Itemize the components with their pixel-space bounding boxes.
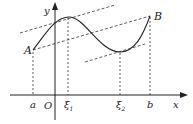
tick-b-label: b <box>147 99 153 110</box>
point-B-label: B <box>153 10 162 23</box>
tick-xi2-label: ξ2 <box>116 99 126 112</box>
y-axis-label: y <box>43 5 50 16</box>
y-axis-arrow-icon <box>52 2 58 10</box>
point-A-label: A <box>23 44 32 57</box>
tangent-line-xi1 <box>20 5 115 33</box>
mvt-diagram: A B y x O a ξ1 ξ2 b <box>0 0 193 124</box>
tangent-line-xi2 <box>85 44 145 62</box>
tick-a-label: a <box>30 99 36 110</box>
origin-label: O <box>44 100 52 111</box>
x-axis-arrow-icon <box>180 92 188 98</box>
tick-xi1-label: ξ1 <box>64 99 73 112</box>
x-axis-label: x <box>173 99 179 110</box>
function-curve <box>33 16 150 52</box>
